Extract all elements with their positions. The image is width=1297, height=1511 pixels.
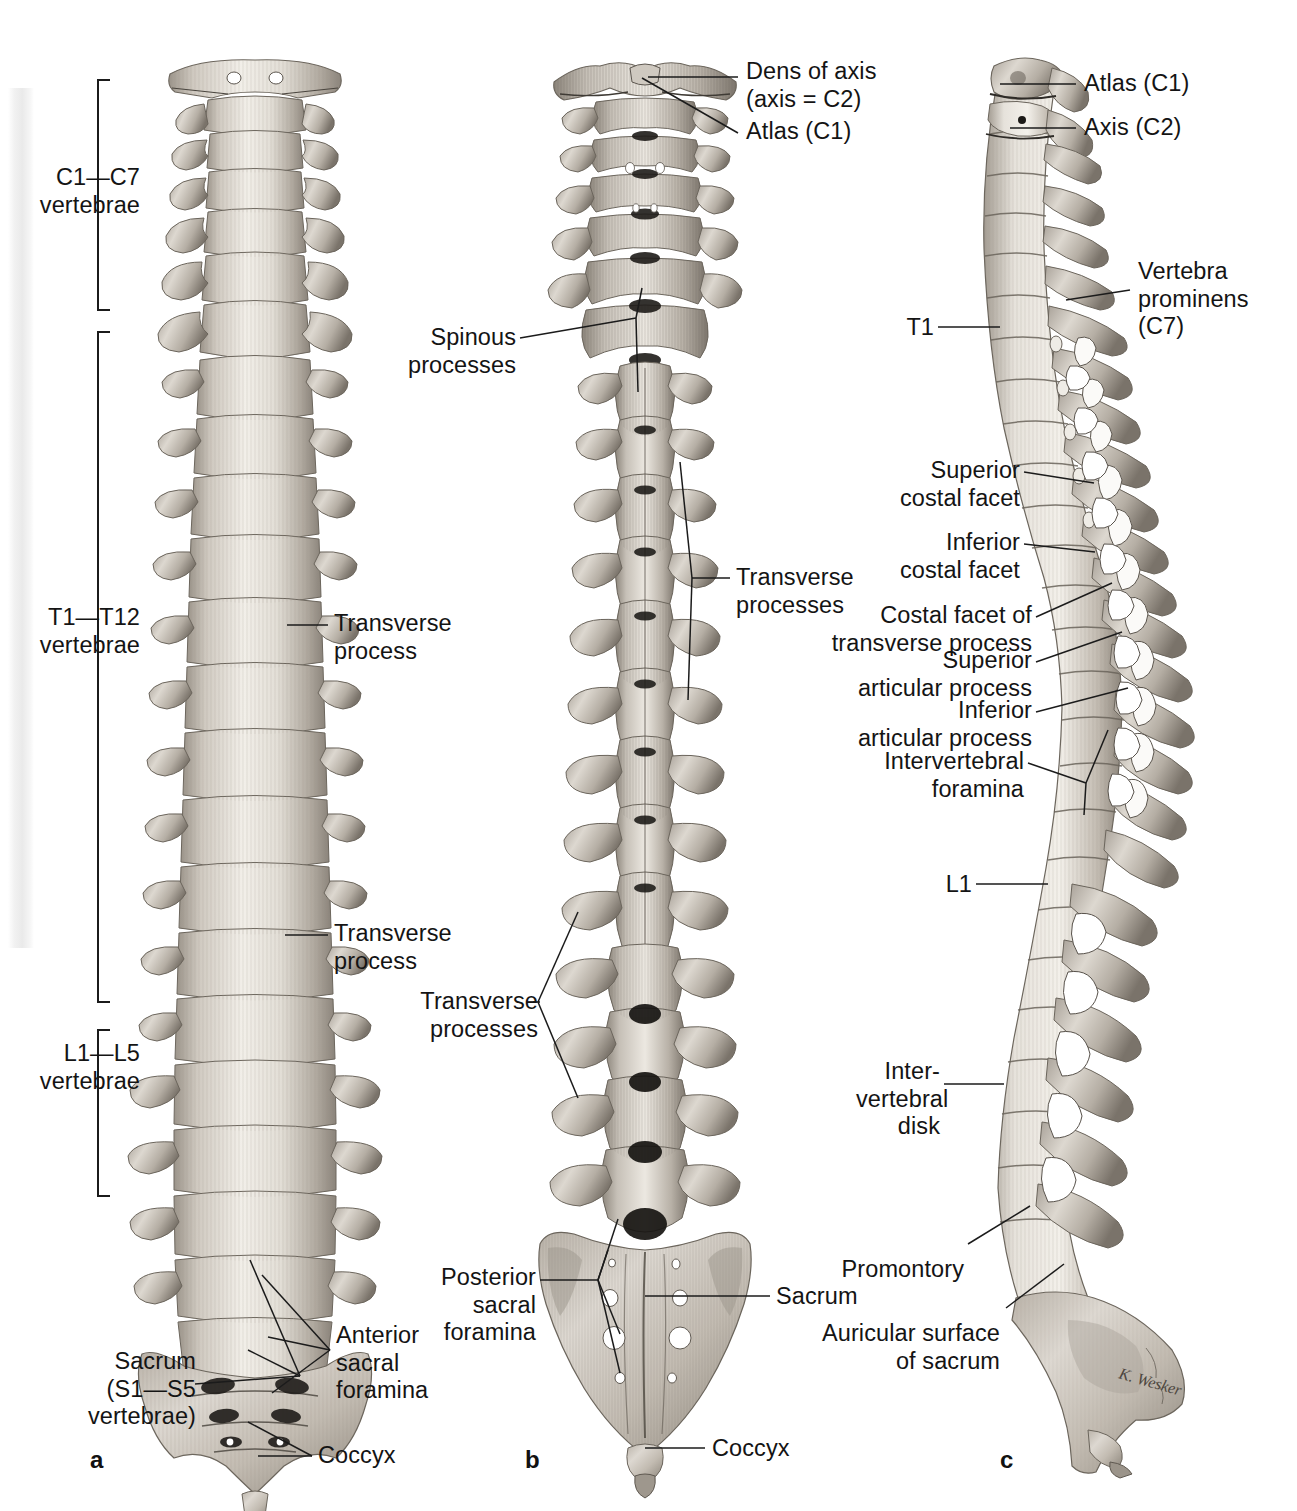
lumbar-vertebrae-posterior [550,944,740,1240]
panel-letter-a: a [90,1446,103,1474]
panel-letter-c: c [1000,1446,1013,1474]
label-superior-costal-facet: Superior costal facet [852,457,1020,512]
label-sacrum-a: Sacrum (S1—S5 vertebrae) [26,1348,196,1431]
label-superior-articular-process: Superior articular process [830,647,1032,702]
label-posterior-sacral-foramina: Posterior sacral foramina [400,1264,536,1347]
panel-a-anterior-spine [130,48,380,1468]
panel-letter-b: b [525,1446,540,1474]
label-dens-of-axis: Dens of axis (axis = C2) [746,58,956,113]
cervical-spinous-processes-lateral [1043,144,1127,356]
label-l1: L1 [916,871,972,899]
label-transverse-processes-lumbar-b: Transverse processes [392,988,538,1043]
label-auricular-surface-of-sacrum: Auricular surface of sacrum [800,1320,1000,1375]
sacrum-lateral: K. Wesker [1012,1292,1184,1478]
label-inferior-articular-process: Inferior articular process [830,697,1032,752]
label-promontory: Promontory [816,1256,964,1284]
label-t1-t12-vertebrae: T1—T12 vertebrae [24,604,140,659]
label-c1-c7-vertebrae: C1—C7 vertebrae [30,164,140,219]
label-vertebra-prominens: Vertebra prominens (C7) [1138,258,1278,341]
label-intervertebral-disk: Inter- vertebral disk [856,1058,940,1141]
label-axis-c: Axis (C2) [1084,114,1264,142]
label-atlas-b: Atlas (C1) [746,118,936,146]
cervical-vertebrae-anterior [158,96,352,358]
label-t1: T1 [880,314,934,342]
label-coccyx-b: Coccyx [712,1435,832,1463]
figure-canvas: K. Wesker [0,0,1297,1511]
cervical-vertebrae-posterior [548,98,742,367]
coccyx-posterior [627,1444,663,1498]
label-sacrum-b: Sacrum [776,1283,906,1311]
label-coccyx-a: Coccyx [318,1442,438,1470]
atlas-posterior [554,63,737,100]
label-transverse-process-thoracic-a: Transverse process [334,610,504,665]
label-l1-l5-vertebrae: L1—L5 vertebrae [28,1040,140,1095]
coccyx-anterior [242,1491,268,1511]
label-intervertebral-foramina: Intervertebral foramina [848,748,1024,803]
label-transverse-process-lumbar-a: Transverse process [334,920,504,975]
panel-b-posterior-spine [530,48,760,1473]
label-inferior-costal-facet: Inferior costal facet [852,529,1020,584]
thoracic-vertebrae-posterior [562,362,728,956]
label-atlas-c: Atlas (C1) [1084,70,1264,98]
atlas-anterior [169,60,341,98]
label-spinous-processes: Spinous processes [392,324,516,379]
